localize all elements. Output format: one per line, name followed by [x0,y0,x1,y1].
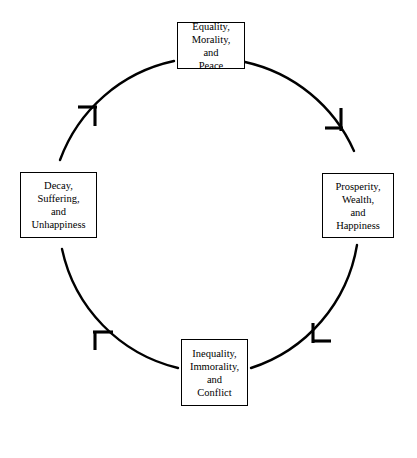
node-line: and [51,205,66,218]
node-line: Prosperity, [335,180,380,193]
node-line: and [350,206,365,219]
node-line: Equality, [192,20,230,33]
node-line: Wealth, [342,193,374,206]
cycle-diagram: Equality, Morality, and Peace Prosperity… [0,0,417,458]
node-line: Unhappiness [31,218,85,231]
arc-left-to-top [60,61,174,160]
node-box-decay-suffering-unhappiness[interactable]: Decay, Suffering, and Unhappiness [20,172,97,238]
node-box-prosperity-wealth-happiness[interactable]: Prosperity, Wealth, and Happiness [322,173,394,238]
node-line: Suffering, [37,192,79,205]
node-box-inequality-immorality-conflict[interactable]: Inequality, Immorality, and Conflict [181,339,248,406]
arc-bottom-to-left [62,249,178,368]
node-box-equality-morality-peace[interactable]: Equality, Morality, and Peace [177,22,245,69]
arrowhead-icon [78,107,97,126]
node-line: Immorality, [190,360,239,373]
node-line: and [207,373,222,386]
arc-right-to-bottom [251,245,357,368]
node-line: Inequality, [192,347,237,360]
node-line: Decay, [44,179,73,192]
node-line: Morality, [192,33,231,46]
arrowhead-icon [93,332,113,350]
arc-top-to-right [245,62,354,151]
node-line: Happiness [336,219,380,232]
node-line: and [203,46,218,59]
node-line: Conflict [197,386,231,399]
node-line: Peace [199,59,223,72]
